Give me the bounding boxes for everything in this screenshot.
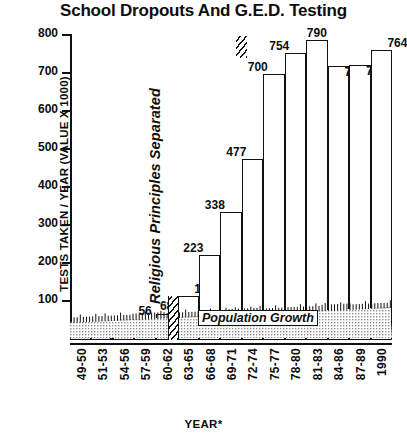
plot-area: 100200300400500600700800 382946566811622… (70, 36, 392, 340)
y-axis-tick-label: 100 (38, 292, 58, 306)
separator-hatch-upper (236, 36, 247, 58)
y-axis-tick: 800 (62, 34, 72, 36)
bar-54-56: 46 (113, 323, 134, 340)
bar-value-label: 764 (387, 37, 407, 50)
x-axis-tick-label-69-71: 69-71 (225, 348, 239, 380)
x-axis-tick-label-81-83: 81-83 (311, 348, 325, 380)
y-axis-line (70, 36, 72, 340)
bar-value-label: 790 (307, 27, 327, 40)
y-axis-tick: 100 (62, 300, 72, 302)
x-axis-tick-label-60-62: 60-62 (161, 348, 175, 380)
x-axis-tick-label-87-89: 87-89 (354, 348, 368, 380)
y-axis-tick: 300 (62, 224, 72, 226)
x-axis-tick-label-78-80: 78-80 (289, 348, 303, 380)
y-axis-tick-label: 500 (38, 140, 58, 154)
y-axis-tick-label: 300 (38, 216, 58, 230)
y-axis-tick: 400 (62, 186, 72, 188)
y-axis-tick: 500 (62, 148, 72, 150)
bar-49-50: 38 (70, 326, 91, 340)
bar-value-label: 477 (226, 146, 246, 159)
x-axis-tick-label-72-74: 72-74 (246, 348, 260, 380)
bar-value-label: 754 (269, 40, 289, 53)
y-axis-tick-label: 200 (38, 254, 58, 268)
y-axis-tick: 200 (62, 262, 72, 264)
x-axis-line-secondary (70, 343, 392, 345)
bar-value-label: 46 (103, 323, 116, 336)
x-axis-title: YEAR* (0, 418, 407, 430)
separator-annotation-label: Religious Principles Separated (147, 46, 163, 346)
y-axis-tick: 700 (62, 72, 72, 74)
x-axis-tick-label-54-56: 54-56 (118, 348, 132, 380)
bar-66-68: 223 (199, 255, 220, 340)
bar-84-86: 720 (328, 66, 349, 340)
x-axis-tick-label-66-68: 66-68 (204, 348, 218, 380)
x-axis-tick-label-1990: 1990 (375, 348, 389, 376)
chart-figure: School Dropouts And G.E.D. Testing TESTS… (0, 0, 407, 439)
bar-value-label: 338 (205, 199, 225, 212)
bar-78-80: 754 (285, 53, 306, 340)
separator-hatch-lower (168, 296, 179, 340)
x-axis-tick-label-84-86: 84-86 (332, 348, 346, 380)
y-axis-tick-label: 700 (38, 64, 58, 78)
x-axis-tick-label-63-65: 63-65 (182, 348, 196, 380)
bar-87-89: 725 (349, 65, 370, 341)
bar-value-label: 700 (248, 61, 268, 74)
population-growth-label: Population Growth (198, 310, 318, 326)
x-axis-tick-label-49-50: 49-50 (75, 348, 89, 380)
x-axis-tick-label-51-53: 51-53 (96, 348, 110, 380)
y-axis-tick-label: 600 (38, 102, 58, 116)
y-axis-tick-label: 800 (38, 26, 58, 40)
bar-1990: 764 (371, 50, 392, 340)
y-axis-title: TESTS TAKEN / YEAR (VALUE X 1000) (58, 34, 70, 334)
bar-63-65: 116 (177, 296, 198, 340)
bar-value-label: 223 (183, 242, 203, 255)
y-axis-tick: 600 (62, 110, 72, 112)
chart-title: School Dropouts And G.E.D. Testing (0, 0, 407, 22)
x-axis-tick-label-57-59: 57-59 (139, 348, 153, 380)
y-axis-tick-label: 400 (38, 178, 58, 192)
bar-81-83: 790 (306, 40, 327, 340)
bar-75-77: 700 (263, 74, 284, 340)
x-axis-tick-label-75-77: 75-77 (268, 348, 282, 380)
